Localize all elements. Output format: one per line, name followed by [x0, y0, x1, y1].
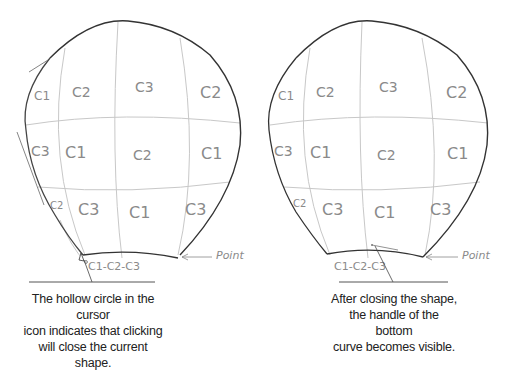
svg-text:C2: C2: [50, 200, 63, 211]
svg-text:C2: C2: [200, 83, 221, 102]
svg-text:C3: C3: [135, 79, 154, 95]
bottom-curve: [83, 252, 178, 258]
svg-text:C1: C1: [65, 143, 86, 162]
svg-text:C1: C1: [374, 203, 395, 222]
svg-text:C2: C2: [446, 83, 467, 102]
panel-before-close: Point C1 C2 C3 C2 C3 C1 C2 C1 C2 C3 C1 C…: [17, 21, 244, 282]
svg-text:C3: C3: [430, 200, 451, 219]
caption-before-close: The hollow circle in the cursor icon ind…: [22, 291, 164, 371]
sketch-grid: [26, 22, 240, 262]
svg-text:C1: C1: [129, 203, 150, 222]
pen-cursor-icon: [79, 253, 84, 261]
handle-endpoint: [371, 244, 373, 246]
svg-text:C2: C2: [293, 198, 306, 209]
svg-text:C2: C2: [377, 147, 396, 163]
svg-text:C3: C3: [379, 79, 398, 95]
svg-text:C1-C2-C3: C1-C2-C3: [88, 260, 140, 273]
svg-text:C2: C2: [133, 147, 152, 163]
svg-text:C3: C3: [31, 143, 50, 159]
panel-after-close: Point C1 C2 C3 C2 C3 C1 C2 C1 C2 C3 C1 C…: [269, 21, 491, 282]
svg-text:C3: C3: [322, 200, 343, 219]
svg-text:C2: C2: [316, 84, 335, 100]
svg-text:C1: C1: [34, 89, 50, 103]
bottom-curve: [327, 250, 423, 257]
svg-text:C2: C2: [72, 84, 91, 100]
cell-labels: C1 C2 C3 C2 C3 C1 C2 C1 C2 C3 C1 C3 C1-C…: [31, 79, 222, 273]
svg-text:C1: C1: [278, 89, 294, 103]
tangent-handle: [29, 60, 48, 72]
svg-text:C1-C2-C3: C1-C2-C3: [334, 260, 386, 273]
svg-text:C3: C3: [274, 143, 293, 159]
caption-after-close: After closing the shape, the handle of t…: [330, 291, 458, 355]
svg-text:C1: C1: [447, 144, 468, 163]
svg-text:C1: C1: [201, 144, 222, 163]
svg-text:C3: C3: [78, 200, 99, 219]
point-label: Point: [216, 249, 244, 262]
svg-text:C1: C1: [310, 143, 331, 162]
svg-text:C3: C3: [185, 200, 206, 219]
point-label: Point: [462, 249, 490, 262]
